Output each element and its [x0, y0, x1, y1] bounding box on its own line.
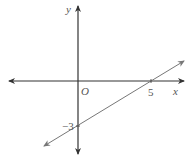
- x-intercept-label: 5: [148, 86, 154, 98]
- origin-label: O: [81, 85, 89, 97]
- y-axis-label: y: [65, 3, 71, 15]
- graph-line: [44, 61, 184, 146]
- coordinate-plane: y x O 5 −3: [0, 0, 196, 157]
- y-intercept-label: −3: [62, 120, 74, 132]
- x-axis-label: x: [172, 85, 178, 97]
